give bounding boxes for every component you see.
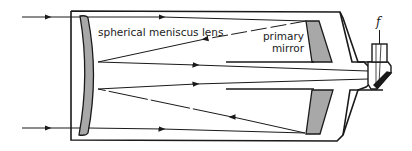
telescope-diagram: spherical meniscus lens primary mirror f: [0, 0, 412, 151]
lens-label: spherical meniscus lens: [98, 26, 223, 38]
rays-to-focus: [98, 62, 368, 89]
meniscus-lens-icon: [79, 16, 94, 136]
primary-mirror-upper-icon: [306, 21, 332, 62]
mirror-label-line2: mirror: [272, 42, 305, 54]
primary-mirror-lower-icon: [306, 90, 333, 134]
focus-label: f: [375, 15, 383, 29]
star-diagonal-icon: [368, 30, 391, 89]
incoming-rays: [22, 17, 81, 128]
mirror-label-line1: primary: [263, 30, 304, 42]
